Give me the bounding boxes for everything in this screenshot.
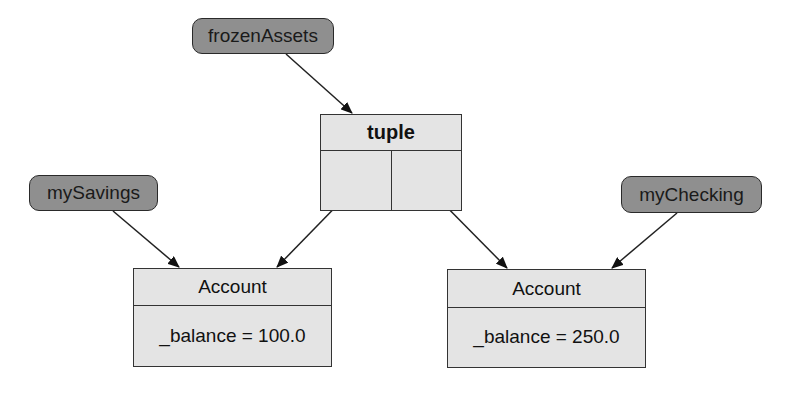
tuple-slots <box>321 151 461 210</box>
account-title: Account <box>198 276 267 298</box>
edge-mySavings-to-account-left <box>113 211 179 267</box>
account-object-left: Account _balance = 100.0 <box>133 268 332 367</box>
reference-label: mySavings <box>47 182 140 204</box>
reference-label: myChecking <box>639 184 744 206</box>
account-header: Account <box>448 270 645 308</box>
edge-frozenAssets-to-tuple <box>286 54 352 113</box>
account-object-right: Account _balance = 250.0 <box>447 269 646 368</box>
tuple-header: tuple <box>321 115 461 151</box>
tuple-object: tuple <box>320 114 462 211</box>
tuple-slot-0 <box>321 151 391 210</box>
tuple-slot-1 <box>391 151 462 210</box>
account-balance: _balance = 100.0 <box>159 325 305 347</box>
reference-label: frozenAssets <box>208 25 318 47</box>
account-title: Account <box>512 278 581 300</box>
tuple-title: tuple <box>367 121 415 144</box>
reference-mySavings: mySavings <box>29 175 158 211</box>
account-balance: _balance = 250.0 <box>473 326 619 348</box>
reference-frozenAssets: frozenAssets <box>192 18 334 54</box>
reference-myChecking: myChecking <box>621 176 762 213</box>
account-body: _balance = 250.0 <box>448 308 645 366</box>
account-header: Account <box>134 269 331 306</box>
account-body: _balance = 100.0 <box>134 306 331 365</box>
edge-myChecking-to-account-right <box>612 213 677 268</box>
